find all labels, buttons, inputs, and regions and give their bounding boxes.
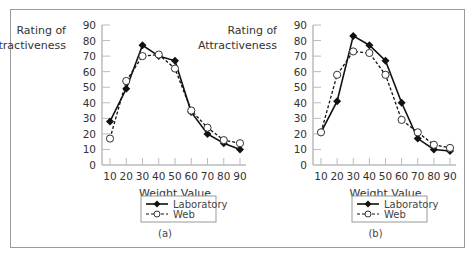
y-tick-label: 0: [300, 159, 307, 171]
y-tick-label: 20: [83, 128, 96, 140]
legend-marker-web: [154, 211, 160, 217]
data-point-web: [317, 129, 324, 136]
x-tick-label: 70: [201, 170, 214, 182]
y-axis-label: Attractiveness: [198, 39, 277, 52]
data-point-web: [139, 53, 146, 60]
legend: LaboratoryWeb: [352, 196, 439, 222]
data-point-web: [204, 124, 211, 131]
y-tick-label: 50: [294, 81, 307, 93]
figure-svg: 0102030405060708090102030405060708090Rat…: [0, 0, 468, 258]
y-tick-label: 0: [89, 159, 96, 171]
y-tick-label: 30: [294, 112, 307, 124]
data-point-laboratory: [122, 85, 130, 93]
data-point-web: [334, 71, 341, 78]
data-point-web: [188, 107, 195, 114]
x-tick-label: 20: [330, 170, 343, 182]
y-tick-label: 60: [294, 66, 307, 78]
y-tick-label: 90: [294, 19, 307, 31]
series-line-web: [321, 51, 450, 147]
panel-label: (b): [368, 228, 382, 239]
y-tick-label: 80: [294, 35, 307, 47]
chart-panel-b: 0102030405060708090102030405060708090Rat…: [198, 19, 457, 239]
x-tick-label: 80: [427, 170, 440, 182]
data-point-web: [366, 49, 373, 56]
data-point-web: [382, 71, 389, 78]
x-tick-label: 50: [168, 170, 181, 182]
series-line-laboratory: [321, 36, 450, 151]
y-axis-label: Rating of: [227, 24, 278, 37]
x-tick-label: 30: [347, 170, 360, 182]
data-point-web: [414, 129, 421, 136]
x-tick-label: 20: [120, 170, 133, 182]
data-point-web: [398, 116, 405, 123]
data-point-web: [350, 48, 357, 55]
data-point-laboratory: [398, 99, 406, 107]
legend-label-web: Web: [173, 209, 195, 220]
x-tick-label: 90: [233, 170, 246, 182]
data-point-web: [430, 141, 437, 148]
data-point-web: [155, 51, 162, 58]
y-tick-label: 20: [294, 128, 307, 140]
y-axis-label: Rating of: [16, 24, 67, 37]
y-tick-label: 70: [294, 50, 307, 62]
data-point-web: [171, 65, 178, 72]
x-tick-label: 40: [152, 170, 165, 182]
y-tick-label: 80: [83, 35, 96, 47]
x-tick-label: 80: [217, 170, 230, 182]
data-point-web: [220, 137, 227, 144]
y-tick-label: 50: [83, 81, 96, 93]
x-tick-label: 10: [314, 170, 327, 182]
data-point-laboratory: [349, 32, 357, 40]
data-point-web: [446, 144, 453, 151]
x-tick-label: 90: [443, 170, 456, 182]
legend-label-web: Web: [384, 209, 406, 220]
data-point-laboratory: [171, 57, 179, 65]
x-tick-label: 70: [411, 170, 424, 182]
y-tick-label: 70: [83, 50, 96, 62]
y-tick-label: 60: [83, 66, 96, 78]
x-tick-label: 40: [363, 170, 376, 182]
x-tick-label: 30: [136, 170, 149, 182]
x-tick-label: 60: [395, 170, 408, 182]
data-point-web: [106, 135, 113, 142]
legend: LaboratoryWeb: [141, 196, 228, 222]
data-point-web: [123, 77, 130, 84]
y-axis-label: Attractiveness: [0, 39, 66, 52]
x-tick-label: 50: [379, 170, 392, 182]
y-tick-label: 10: [294, 143, 307, 155]
y-tick-label: 40: [294, 97, 307, 109]
x-tick-label: 60: [185, 170, 198, 182]
x-tick-label: 10: [103, 170, 116, 182]
y-tick-label: 40: [83, 97, 96, 109]
legend-marker-web: [365, 211, 371, 217]
y-tick-label: 90: [83, 19, 96, 31]
data-point-laboratory: [333, 97, 341, 105]
y-tick-label: 30: [83, 112, 96, 124]
y-tick-label: 10: [83, 143, 96, 155]
data-point-web: [236, 140, 243, 147]
panel-label: (a): [158, 228, 172, 239]
chart-panel-a: 0102030405060708090102030405060708090Rat…: [0, 19, 247, 239]
